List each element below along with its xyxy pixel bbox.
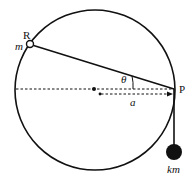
label-km: km [167,164,180,175]
rod-r-to-p [32,45,174,89]
label-a: a [130,97,136,108]
label-m: m [15,41,23,52]
distance-a-start-dot [99,93,102,96]
theta-arc [132,76,133,89]
diagram-svg [0,0,194,181]
hanging-mass-km [166,144,182,160]
diagram-canvas: R m P θ a km [0,0,194,181]
distance-a-arrowhead-icon [167,92,173,97]
ring-r [27,41,34,48]
label-r: R [23,30,30,41]
label-theta: θ [121,74,126,85]
center-dot [92,87,96,91]
label-p: P [179,84,185,95]
